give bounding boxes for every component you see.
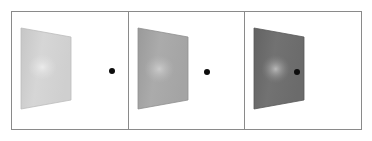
surface-2: [137, 26, 189, 111]
surface-1: [20, 26, 72, 111]
slanted-surface-shape-icon: [137, 26, 189, 111]
panel-strip: [11, 11, 362, 130]
figure-root: [0, 0, 372, 141]
target-dot-2[interactable]: [204, 69, 210, 75]
panel-1[interactable]: [12, 12, 128, 129]
panel-3[interactable]: [244, 12, 361, 129]
target-dot-1[interactable]: [109, 68, 115, 74]
panel-2[interactable]: [128, 12, 245, 129]
slanted-surface-shape-icon: [20, 26, 72, 111]
